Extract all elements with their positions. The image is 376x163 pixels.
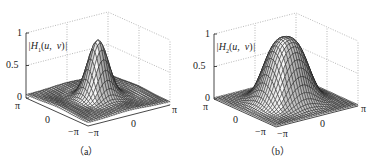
y-tick-0: 0 — [131, 119, 136, 129]
panel-a: 1 0.5 0 |H1(u, v)| π 0 −π −π 0 π （a） — [0, 0, 188, 163]
x-tick-0: 0 — [233, 115, 238, 125]
abs-bar-close: | — [65, 40, 68, 51]
x-tick-neg-pi: −π — [68, 127, 79, 137]
H-symbol: H — [219, 41, 226, 52]
x-tick-pi: π — [15, 101, 20, 111]
H-symbol: H — [31, 40, 38, 51]
z-tick-1: 1 — [205, 29, 210, 39]
y-tick-neg-pi: −π — [88, 128, 99, 138]
y-tick-pi: π — [172, 105, 177, 115]
z-axis-label: |H1(u, v)| — [28, 41, 67, 53]
y-tick-neg-pi: −π — [277, 129, 288, 139]
z-tick-0-5: 0.5 — [193, 61, 206, 71]
abs-bar-close: | — [253, 41, 256, 52]
y-tick-0: 0 — [320, 119, 325, 129]
caption-b: （b） — [265, 147, 290, 157]
x-tick-0: 0 — [45, 115, 50, 125]
x-tick-neg-pi: −π — [255, 127, 266, 137]
x-tick-pi: π — [203, 102, 208, 112]
z-axis-label: |H2(u, v)| — [216, 42, 255, 54]
surface-plot-a — [0, 0, 188, 163]
caption-a: （a） — [74, 147, 98, 157]
z-tick-0-5: 0.5 — [6, 60, 19, 70]
panel-b: 1 0.5 0 |H2(u, v)| π 0 −π −π 0 π （b） — [188, 0, 376, 163]
z-tick-1: 1 — [17, 28, 22, 38]
y-tick-pi: π — [361, 104, 366, 114]
